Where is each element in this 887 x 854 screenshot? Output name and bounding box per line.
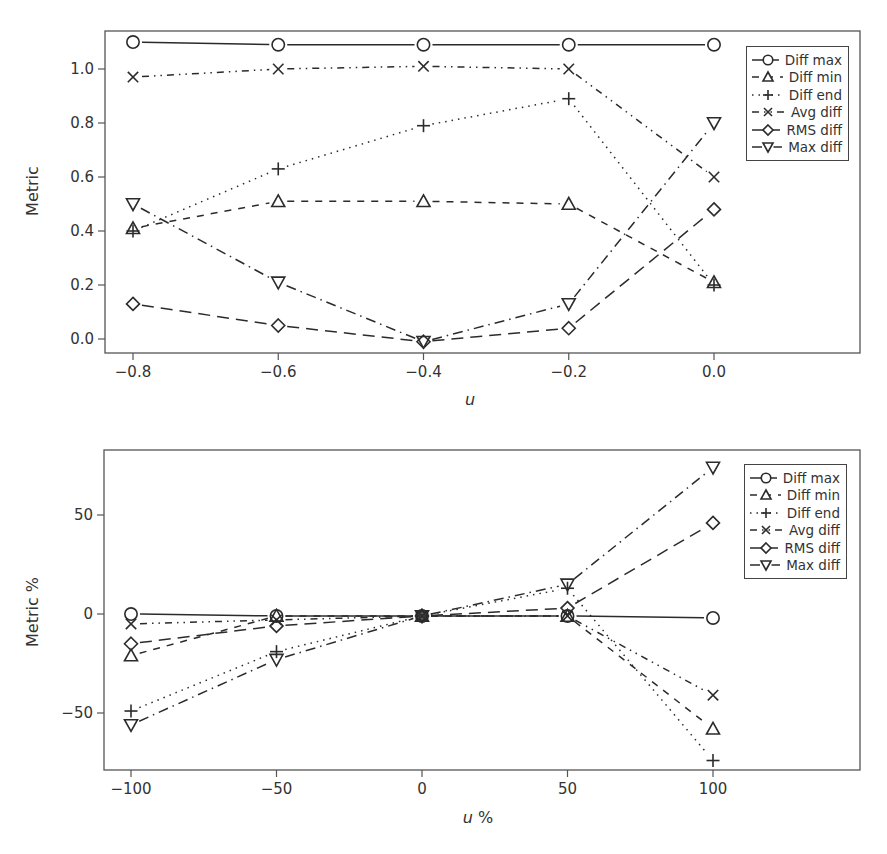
series-line-segment — [285, 619, 413, 657]
series-line-segment — [576, 616, 704, 618]
circle-marker-icon — [707, 612, 719, 624]
bottom-chart-y-axis-label: Metric % — [23, 577, 42, 647]
legend-item: RMS diff — [749, 539, 840, 557]
legend-label: Diff end — [787, 505, 840, 521]
legend-swatch-icon — [749, 506, 781, 520]
legend-item: Avg diff — [749, 522, 840, 540]
triangle-up-marker-icon — [707, 722, 720, 734]
legend-swatch-icon — [749, 471, 777, 485]
plus-marker-icon — [125, 705, 138, 718]
legend-label: Diff min — [787, 487, 840, 503]
x-tick-label: −100 — [110, 780, 151, 798]
series-max-diff — [125, 462, 720, 731]
legend-label: Diff max — [783, 470, 840, 486]
legend-label: RMS diff — [784, 540, 840, 556]
series-line-segment — [573, 595, 707, 754]
x-axis-label-suffix: % — [473, 808, 493, 827]
triangle-down-marker-icon — [707, 462, 720, 474]
series-rms-diff — [125, 516, 720, 650]
legend-swatch-icon — [749, 488, 781, 502]
diamond-legend-icon — [761, 543, 771, 553]
x-axis-label-variable: u — [463, 808, 473, 827]
x-marker-icon — [708, 690, 718, 700]
legend-swatch-icon — [749, 523, 783, 537]
x-tick-label: −50 — [261, 780, 293, 798]
legend-label: Max diff — [786, 557, 840, 573]
series-line-segment — [140, 614, 268, 616]
triangle-down-marker-icon — [125, 720, 138, 732]
series-line-segment — [575, 527, 705, 603]
y-tick-label: −50 — [61, 704, 93, 722]
y-tick-label: 0 — [83, 605, 93, 623]
circle-marker-icon — [125, 608, 137, 620]
legend-item: Diff end — [749, 504, 840, 522]
y-tick-label: 50 — [74, 506, 93, 524]
diamond-marker-icon — [707, 516, 720, 529]
legend-item: Diff min — [749, 487, 840, 505]
series-line-segment — [285, 618, 413, 649]
series-line-segment — [139, 655, 268, 708]
bottom-chart-panel: −100−50050100 −50050 Metric % u % Diff m… — [0, 0, 887, 854]
series-line-segment — [431, 590, 559, 614]
triangle-down-legend-icon — [761, 561, 771, 570]
x-tick-label: 50 — [558, 780, 577, 798]
plus-marker-icon — [270, 645, 283, 658]
series-line-segment — [431, 609, 559, 616]
series-diff-min — [125, 609, 720, 734]
x-tick-label: 100 — [699, 780, 728, 798]
plus-marker-icon — [707, 754, 720, 767]
series-line-segment — [285, 616, 413, 619]
legend-swatch-icon — [749, 541, 778, 555]
legend-item: Diff max — [749, 469, 840, 487]
legend-label: Avg diff — [789, 522, 840, 538]
legend-swatch-icon — [749, 558, 780, 572]
legend-item: Max diff — [749, 557, 840, 575]
series-line-segment — [140, 627, 268, 643]
bottom-chart-legend: Diff maxDiff minDiff endAvg diffRMS diff… — [744, 464, 847, 579]
plus-legend-icon — [761, 508, 771, 518]
series-line-segment — [575, 621, 706, 723]
circle-legend-icon — [761, 473, 771, 483]
series-line-segment — [575, 473, 706, 579]
x-tick-label: 0 — [417, 780, 427, 798]
bottom-chart-x-axis-label: u % — [463, 808, 493, 827]
bottom-chart-plot — [0, 0, 887, 854]
series-line-segment — [139, 663, 268, 721]
series-avg-diff — [126, 611, 718, 701]
series-line-segment — [575, 620, 705, 691]
